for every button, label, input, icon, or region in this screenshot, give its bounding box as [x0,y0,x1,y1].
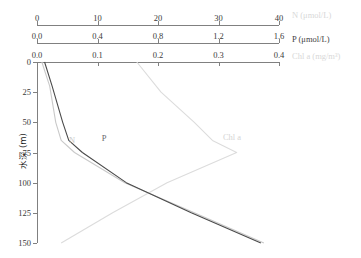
tick-label-depth-0: 0 [7,58,31,67]
tick-label-n-0: 0 [35,14,39,23]
tick-label-p-0: 0.0 [32,32,43,41]
tick-label-p-2: 0.8 [153,32,164,41]
tick-depth-5 [33,213,37,214]
curve-label-n: N [69,136,75,145]
curve-n [42,62,264,243]
tick-label-p-4: 1.6 [274,32,285,41]
tick-label-n-1: 10 [93,14,102,23]
tick-label-chl-0: 0.0 [32,51,43,60]
tick-label-depth-6: 150 [7,239,31,248]
profile-curves [0,0,361,258]
tick-depth-6 [33,243,37,244]
tick-label-n-3: 30 [214,14,223,23]
tick-depth-0 [33,62,37,63]
tick-depth-3 [33,153,37,154]
tick-label-chl-4: 0.4 [274,51,285,60]
tick-label-depth-3: 75 [7,148,31,157]
tick-depth-4 [33,183,37,184]
tick-label-depth-4: 100 [7,178,31,187]
tick-label-n-2: 20 [154,14,163,23]
curve-chl [61,62,236,243]
tick-label-n-4: 40 [275,14,284,23]
tick-label-chl-3: 0.3 [213,51,224,60]
curve-label-p: P [102,134,107,143]
tick-label-p-3: 1.2 [213,32,224,41]
tick-label-chl-1: 0.1 [92,51,103,60]
tick-label-depth-1: 25 [7,88,31,97]
tick-label-depth-2: 50 [7,118,31,127]
curve-label-chl: Chl a [223,133,241,142]
curve-p [45,62,261,243]
tick-label-chl-2: 0.2 [153,51,164,60]
tick-label-depth-5: 125 [7,208,31,217]
tick-depth-2 [33,122,37,123]
figure-container: N (μmol/L) P (μmol/L) Chl a (mg/m³) 水深 (… [0,0,361,258]
tick-label-p-1: 0.4 [92,32,103,41]
tick-depth-1 [33,92,37,93]
